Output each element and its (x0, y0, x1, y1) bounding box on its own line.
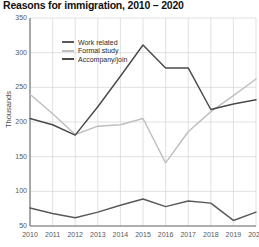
legend-swatch-accompany-join (62, 58, 74, 60)
plot-area (0, 0, 259, 247)
chart-container: Reasons for immigration, 2010 – 2020 Tho… (0, 0, 259, 247)
legend-swatch-work-related (62, 41, 74, 43)
legend-label-formal-study: Formal study (78, 47, 118, 54)
legend-item: Accompany/join (62, 55, 127, 64)
legend-item: Work related (62, 38, 127, 47)
legend-item: Formal study (62, 47, 127, 56)
chart-legend: Work related Formal study Accompany/join (62, 38, 127, 64)
legend-label-work-related: Work related (78, 39, 118, 46)
legend-swatch-formal-study (62, 50, 74, 52)
legend-label-accompany-join: Accompany/join (78, 56, 127, 63)
